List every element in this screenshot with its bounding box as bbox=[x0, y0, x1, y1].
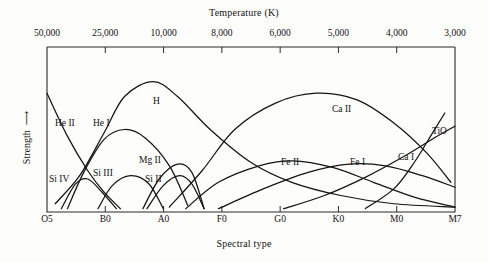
curve-he-i bbox=[67, 129, 187, 208]
bottom-axis-tickmarks bbox=[105, 206, 396, 212]
curve-label-ca-i: Ca I bbox=[398, 152, 414, 162]
plot-canvas bbox=[0, 0, 488, 263]
curve-label-fe-i: Fe I bbox=[350, 157, 365, 167]
curve-label-h: H bbox=[153, 96, 160, 106]
curve-fe-ii bbox=[186, 161, 455, 209]
curve-fe-i bbox=[218, 164, 455, 209]
curve-he-ii bbox=[47, 93, 120, 209]
frame-left-bottom-right bbox=[47, 47, 455, 212]
plot-frame bbox=[47, 47, 455, 212]
curve-group bbox=[47, 82, 455, 209]
curve-label-fe-ii: Fe II bbox=[281, 157, 299, 167]
curve-label-he-ii: He II bbox=[55, 118, 75, 128]
top-axis-tickmarks bbox=[105, 47, 396, 53]
x-axis-title: Spectral type bbox=[0, 238, 488, 249]
spectral-line-strength-figure: Temperature (K) Strength ⟶ 50,00025,0001… bbox=[0, 0, 488, 263]
curve-ca-ii bbox=[169, 93, 451, 207]
curve-label-ca-ii: Ca II bbox=[332, 104, 351, 114]
curve-label-he-i: He I bbox=[93, 118, 110, 128]
curve-label-si-ii: Si II bbox=[145, 174, 162, 184]
curve-label-si-iii: Si III bbox=[93, 168, 113, 178]
curve-label-si-iv: Si IV bbox=[49, 174, 69, 184]
curve-label-mg-ii: Mg II bbox=[139, 155, 161, 165]
curve-label-tio: TiO bbox=[432, 126, 447, 136]
